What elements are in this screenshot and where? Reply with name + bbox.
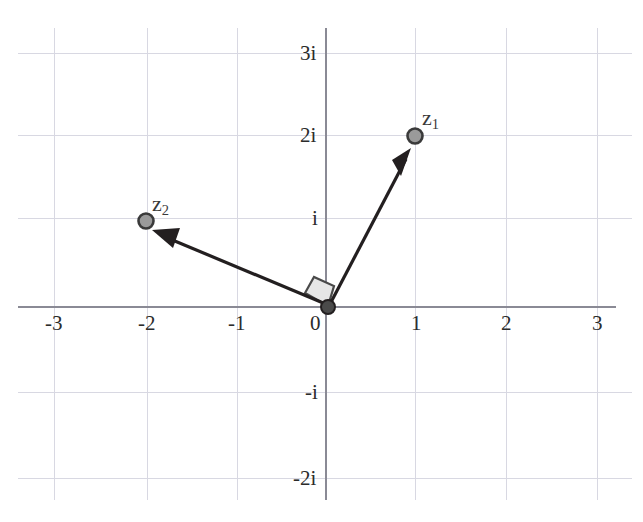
x-tick-label-3: 3 (592, 313, 603, 334)
y-tick-label-i: i (312, 208, 318, 229)
point-origin (321, 300, 335, 314)
point-label-z1-base: z (422, 105, 432, 130)
y-tick-label-minus-i: -i (305, 382, 318, 403)
x-tick-label-minus3: -3 (45, 313, 63, 334)
y-tick-label-2i: 2i (300, 125, 316, 146)
point-z1 (408, 129, 423, 144)
axes (18, 28, 616, 500)
point-label-z2-base: z (152, 191, 162, 216)
point-label-z2: z2 (152, 193, 169, 217)
vector-z1-shaft (329, 159, 406, 306)
x-tick-label-minus2: -2 (138, 313, 156, 334)
vector-z2-arrowhead (152, 228, 180, 248)
point-label-z2-subscript: 2 (162, 202, 169, 218)
x-tick-label-0: 0 (310, 313, 321, 334)
vector-z2-shaft (170, 239, 328, 305)
y-tick-label-3i: 3i (300, 43, 316, 64)
x-tick-label-2: 2 (501, 313, 512, 334)
complex-plane-figure: -3 -2 -1 0 1 2 3 3i 2i i -i -2i z1 z2 (0, 0, 643, 522)
y-tick-label-minus-2i: -2i (293, 468, 316, 489)
point-label-z1-subscript: 1 (432, 116, 439, 132)
plot-canvas (0, 0, 643, 522)
x-tick-label-minus1: -1 (228, 313, 246, 334)
vectors (152, 148, 411, 306)
x-tick-label-1: 1 (411, 313, 422, 334)
point-label-z1: z1 (422, 107, 439, 131)
vector-z1-arrowhead (392, 148, 411, 176)
